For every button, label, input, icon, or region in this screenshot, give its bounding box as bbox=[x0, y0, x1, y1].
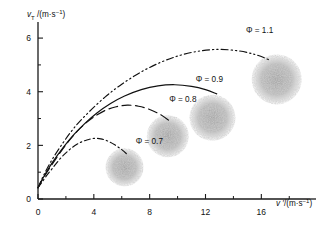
curve-label-4: Φ = 1.1 bbox=[246, 26, 274, 35]
x-tick-label: 12 bbox=[201, 207, 211, 217]
y-tick-label: 4 bbox=[26, 87, 31, 97]
x-tick-label: 8 bbox=[147, 207, 152, 217]
blob-texture-1 bbox=[106, 148, 144, 186]
x-tick-label: 0 bbox=[36, 207, 41, 217]
x-axis-title: v ′/(m·s−1) bbox=[276, 198, 312, 208]
curve-label-2: Φ = 0.8 bbox=[169, 95, 197, 104]
x-tick-label: 16 bbox=[257, 207, 267, 217]
y-tick-label: 0 bbox=[26, 194, 31, 204]
axes-group bbox=[38, 22, 316, 199]
y-tick-label: 2 bbox=[26, 141, 31, 151]
velocity-curves-chart: 04812160246 Φ = 0.7Φ = 0.8Φ = 0.9Φ = 1.1… bbox=[0, 0, 332, 235]
y-tick-label: 6 bbox=[26, 33, 31, 43]
x-tick-label: 4 bbox=[91, 207, 96, 217]
chart-figure: 04812160246 Φ = 0.7Φ = 0.8Φ = 0.9Φ = 1.1… bbox=[0, 0, 332, 235]
y-axis-title: vT /(m·s−1) bbox=[27, 9, 66, 21]
curve-label-1: Φ = 0.7 bbox=[136, 137, 164, 146]
blob-texture-4 bbox=[252, 54, 302, 104]
curve-label-3: Φ = 0.9 bbox=[196, 75, 224, 84]
